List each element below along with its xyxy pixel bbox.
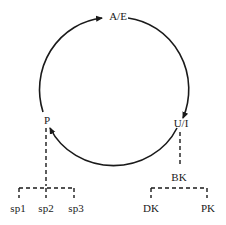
cycle-diagram bbox=[0, 0, 226, 225]
right-branch-lines bbox=[151, 132, 207, 198]
arc-ui-to-p bbox=[50, 128, 177, 166]
leaf-sp1-label: sp1 bbox=[10, 203, 25, 214]
node-ui-label: U/I bbox=[174, 118, 189, 129]
arc-ae-to-ui bbox=[128, 18, 189, 118]
node-p-label: P bbox=[44, 115, 50, 126]
leaf-pk-label: PK bbox=[201, 203, 215, 214]
node-ae-label: A/E bbox=[109, 11, 127, 22]
left-branch-lines bbox=[19, 128, 74, 198]
node-bk-label: BK bbox=[171, 172, 186, 183]
arc-p-to-ae bbox=[40, 18, 102, 112]
leaf-sp2-label: sp2 bbox=[38, 203, 53, 214]
leaf-sp3-label: sp3 bbox=[68, 203, 83, 214]
leaf-dk-label: DK bbox=[143, 203, 159, 214]
